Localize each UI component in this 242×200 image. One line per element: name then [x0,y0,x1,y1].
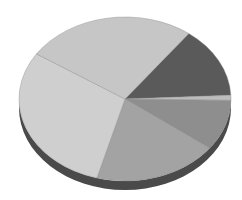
pie-chart [0,0,242,200]
pie-slices [19,17,231,181]
